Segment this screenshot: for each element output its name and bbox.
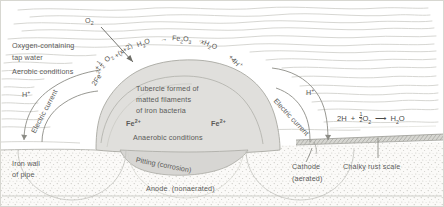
cathode-reaction-equation: 2H + 12O2 ⟶ H2O: [337, 112, 405, 125]
tubercle-description-line1: Tubercle formed of: [136, 84, 199, 93]
tubercle-description-line2: matted filaments: [136, 95, 191, 104]
hydrogen-ion-left-label: H+: [22, 88, 31, 100]
cathode-label-line1: Cathode: [292, 162, 320, 171]
tap-water-label-line1: Oxygen-containing: [12, 41, 74, 50]
ferrous-ion-right-label: Fe2+: [211, 117, 226, 129]
corrosion-tubercle-diagram: O2 Oxygen-containing tap water Aerobic c…: [0, 0, 444, 207]
iron-wall-label-line1: Iron wall: [12, 159, 40, 168]
aerobic-conditions-label: Aerobic conditions: [12, 67, 73, 76]
oxygen-gas-label: O2: [85, 16, 94, 29]
iron-wall-label-line2: of pipe: [12, 170, 35, 179]
hydrogen-ion-right-label: H+: [306, 86, 315, 98]
ferrous-ion-left-label: Fe2+: [126, 117, 141, 129]
cathode-label-line2: (aerated): [292, 174, 323, 183]
anode-label: Anode (nonaerated): [146, 184, 215, 193]
tap-water-label-line2: tap water: [12, 53, 43, 62]
diagram-artwork: [0, 0, 444, 207]
anaerobic-conditions-label: Anaerobic conditions: [133, 133, 203, 142]
chalky-rust-scale-label: Chalky rust scale: [343, 162, 400, 171]
tubercle-description-line3: of iron bacteria: [136, 106, 186, 115]
